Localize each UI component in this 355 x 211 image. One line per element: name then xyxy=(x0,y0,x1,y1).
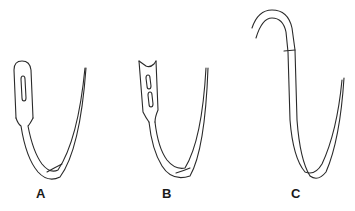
needle-label-b: B xyxy=(162,187,171,200)
needle-label-a: A xyxy=(36,187,45,200)
needle-label-c: C xyxy=(291,187,300,200)
needle-diagram: A B C xyxy=(0,0,355,211)
needles-drawing xyxy=(0,0,355,211)
needle-c-illustration xyxy=(252,10,344,178)
needle-b-illustration xyxy=(139,61,208,178)
needle-a-illustration xyxy=(14,61,86,179)
